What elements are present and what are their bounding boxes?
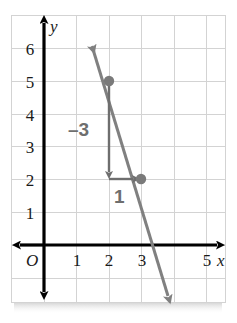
rise-label: –3	[68, 120, 89, 139]
y-tick-label-3: 3	[22, 139, 38, 156]
point-3-2	[136, 174, 146, 184]
x-tick-label-2: 2	[101, 252, 117, 269]
x-tick-label-3: 3	[134, 252, 150, 269]
slope-graph-figure: 6 5 4 3 2 1 1 2 3 5 O y x –3 1	[0, 0, 237, 323]
y-tick-label-6: 6	[22, 41, 38, 58]
y-tick-label-1: 1	[22, 205, 38, 222]
y-tick-label-4: 4	[22, 107, 38, 124]
page-shadow	[14, 303, 222, 314]
x-tick-label-5: 5	[199, 252, 215, 269]
x-axis-label: x	[217, 252, 225, 269]
y-tick-label-5: 5	[22, 74, 38, 91]
origin-label: O	[26, 252, 38, 269]
y-tick-label-2: 2	[22, 172, 38, 189]
x-tick-label-1: 1	[69, 252, 85, 269]
y-axis-label: y	[50, 18, 58, 35]
run-label: 1	[114, 187, 125, 206]
point-2-5	[104, 76, 114, 86]
